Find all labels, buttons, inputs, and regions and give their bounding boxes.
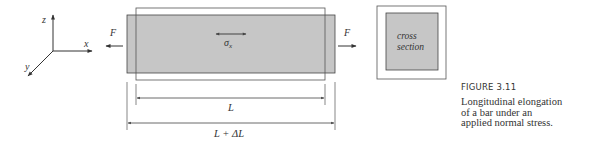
caption-text: Longitudinal elongation of a bar under a… (461, 97, 596, 129)
y-axis (28, 51, 53, 76)
left-force-label: F (109, 27, 117, 38)
right-force: F (338, 27, 356, 46)
cross-section: cross section (377, 6, 446, 79)
figure-caption: FIGURE 3.11 Longitudinal elongation of a… (461, 82, 596, 129)
coordinate-axes: z x y (24, 14, 92, 76)
caption-line: Longitudinal elongation (461, 97, 596, 108)
left-force: F (106, 27, 123, 46)
dimension-label-L-plus-deltaL: L + ΔL (213, 128, 244, 139)
dimension-elongated-length: L + ΔL (128, 123, 334, 139)
y-axis-label: y (24, 61, 30, 72)
figure-number: FIGURE 3.11 (461, 82, 596, 92)
right-force-label: F (343, 27, 351, 38)
x-axis-label: x (83, 38, 89, 49)
cross-section-label-1: cross (397, 31, 417, 41)
cross-section-label-2: section (397, 42, 424, 52)
dimension-original-length: L (137, 98, 324, 113)
caption-line: applied normal stress. (461, 118, 596, 129)
z-axis-label: z (41, 14, 46, 25)
dimension-label-L: L (227, 102, 234, 113)
